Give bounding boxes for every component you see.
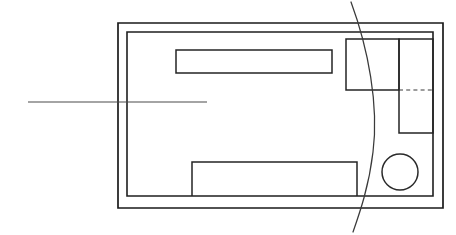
right-upper-box	[346, 39, 399, 90]
right-tall-box	[399, 39, 433, 133]
technical-drawing-canvas	[0, 0, 456, 235]
drawing-svg	[0, 0, 456, 235]
upper-horizontal-bar	[176, 50, 332, 73]
lower-horizontal-bar	[192, 162, 357, 196]
circle-fixture	[382, 154, 418, 190]
inner-wall-rectangle	[127, 32, 433, 196]
sweep-arc-curve	[351, 2, 375, 232]
